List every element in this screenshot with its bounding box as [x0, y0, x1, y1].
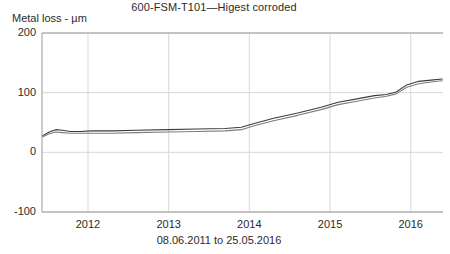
y-tick-label: 0: [2, 145, 36, 157]
y-tick-label: 200: [2, 26, 36, 38]
series-line-sensor-a: [43, 79, 442, 136]
x-axis-caption: 08.06.2011 to 25.05.2016: [0, 234, 450, 246]
x-tick-label: 2016: [381, 218, 441, 230]
y-tick-label: 100: [2, 86, 36, 98]
plot-area: [0, 0, 450, 254]
x-tick-label: 2013: [139, 218, 199, 230]
x-axis-caption-text: 08.06.2011 to 25.05.2016: [157, 234, 282, 246]
x-tick-label: 2014: [219, 218, 279, 230]
y-tick-label: -100: [2, 205, 36, 217]
axis-frame: [42, 33, 443, 212]
series-line-sensor-b: [43, 81, 442, 137]
metal-loss-chart: 600-FSM-T101—Higest corroded Metal loss …: [0, 0, 450, 254]
data-series-group: [43, 79, 442, 137]
gridlines: [42, 33, 443, 212]
x-tick-label: 2012: [58, 218, 118, 230]
x-tick-label: 2015: [300, 218, 360, 230]
